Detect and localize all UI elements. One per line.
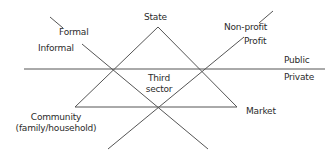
community-label: Community (family/household) xyxy=(14,112,98,134)
third-sector-line2: sector xyxy=(139,84,179,95)
non-profit-label: Non-profit xyxy=(224,22,267,33)
third-sector-label: Third sector xyxy=(139,73,179,95)
informal-label: Informal xyxy=(38,43,74,54)
welfare-triangle xyxy=(75,27,237,107)
formal-informal-divider xyxy=(82,44,208,149)
private-label: Private xyxy=(284,72,314,83)
community-line2: (family/household) xyxy=(14,123,98,134)
formal-label: Formal xyxy=(59,27,89,38)
state-label: State xyxy=(144,12,167,23)
third-sector-line1: Third xyxy=(139,73,179,84)
market-label: Market xyxy=(246,106,276,117)
community-line1: Community xyxy=(14,112,98,123)
profit-label: Profit xyxy=(244,36,266,47)
public-label: Public xyxy=(284,55,309,66)
